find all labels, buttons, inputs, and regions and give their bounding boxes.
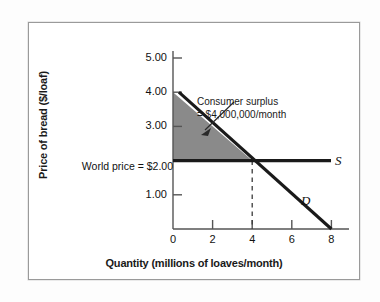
y-axis-ticks	[173, 58, 182, 195]
x-axis-ticks	[213, 220, 332, 229]
page-background: Price of bread ($/loaf) Quantity (millio…	[0, 0, 380, 302]
supply-demand-plot	[29, 23, 359, 279]
consumer-surplus-annotation-line1: Consumer surplus	[197, 95, 286, 108]
y-tick-label-5: 5.00	[121, 51, 167, 63]
y-axis-title: Price of bread ($/loaf)	[37, 45, 49, 205]
y-tick-label-3: 3.00	[121, 119, 167, 131]
x-tick-label-8: 8	[319, 233, 343, 245]
x-tick-label-6: 6	[280, 233, 304, 245]
x-tick-label-2: 2	[201, 233, 225, 245]
x-axis-title: Quantity (millions of loaves/month)	[29, 257, 359, 269]
figure-frame: Price of bread ($/loaf) Quantity (millio…	[28, 22, 360, 280]
y-tick-label-4: 4.00	[121, 85, 167, 97]
y-tick-label-1: 1.00	[121, 188, 167, 200]
x-tick-label-0: 0	[161, 233, 185, 245]
consumer-surplus-annotation-line2: = $4,000,000/month	[197, 108, 286, 121]
world-price-label: World price = $2.00	[27, 160, 173, 172]
demand-curve-label: D	[301, 193, 310, 209]
supply-curve-label: S	[335, 153, 342, 169]
consumer-surplus-annotation: Consumer surplus = $4,000,000/month	[197, 95, 286, 121]
x-tick-label-4: 4	[240, 233, 264, 245]
